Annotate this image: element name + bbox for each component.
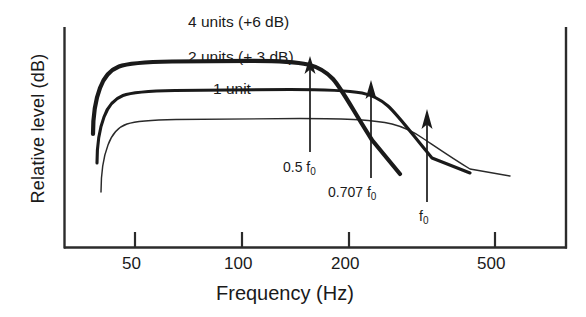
x-tick-label-500: 500 bbox=[477, 255, 505, 272]
curve-label-2-units: 2 units (+ 3 dB) bbox=[188, 49, 294, 65]
x-axis-ticks bbox=[135, 232, 495, 247]
annotation-label-f0: f0 bbox=[419, 209, 428, 226]
x-axis-title: Frequency (Hz) bbox=[216, 283, 354, 303]
annotation-root2-sub: 0 bbox=[371, 191, 377, 202]
x-tick-label-200: 200 bbox=[331, 255, 359, 272]
annotation-root2-main: 0.707 f bbox=[328, 184, 371, 200]
annotation-label-root2-f0: 0.707 f0 bbox=[328, 185, 376, 202]
x-tick-label-50: 50 bbox=[122, 255, 141, 272]
figure-canvas: 4 units (+6 dB) 2 units (+ 3 dB) 1 unit … bbox=[0, 0, 586, 317]
annotation-half-main: 0.5 f bbox=[283, 159, 310, 175]
y-axis-title: Relative level (dB) bbox=[28, 29, 49, 229]
annotation-f0-sub: 0 bbox=[423, 215, 429, 226]
annotation-arrow-0.5f0 bbox=[305, 56, 316, 152]
axis-lines bbox=[64, 27, 567, 249]
annotation-half-sub: 0 bbox=[310, 166, 316, 177]
curve-label-1-unit: 1 unit bbox=[213, 81, 251, 97]
curve-4-units bbox=[93, 61, 400, 174]
curve-1-unit bbox=[101, 119, 510, 193]
annotation-label-half-f0: 0.5 f0 bbox=[283, 160, 316, 177]
curve-label-4-units: 4 units (+6 dB) bbox=[188, 14, 289, 30]
x-tick-label-100: 100 bbox=[224, 255, 252, 272]
